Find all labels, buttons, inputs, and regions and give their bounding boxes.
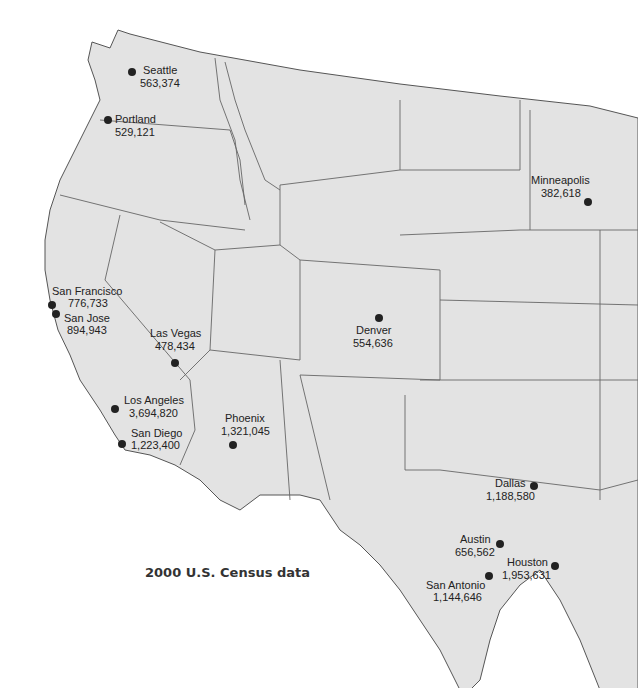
city-name: Las Vegas xyxy=(150,327,202,339)
city-name: San Francisco xyxy=(52,285,122,297)
city-population: 529,121 xyxy=(115,126,155,138)
city-population: 554,636 xyxy=(353,337,393,349)
city-name: San Antonio xyxy=(426,579,485,591)
city-population: 1,188,580 xyxy=(486,490,535,502)
city-name: Dallas xyxy=(495,477,526,489)
city-dot xyxy=(52,310,60,318)
census-map: Seattle 563,374 Portland 529,121 Minneap… xyxy=(0,0,638,688)
city-name: Los Angeles xyxy=(124,394,184,406)
city-population: 1,223,400 xyxy=(131,439,180,451)
city-population: 656,562 xyxy=(455,546,495,558)
city-population: 776,733 xyxy=(68,297,108,309)
city-population: 894,943 xyxy=(67,324,107,336)
city-dot xyxy=(229,441,237,449)
city-population: 563,374 xyxy=(140,77,180,89)
city-name: San Diego xyxy=(131,427,182,439)
city-dot xyxy=(496,540,504,548)
city-name: Minneapolis xyxy=(531,174,590,186)
city-dot xyxy=(485,572,493,580)
city-dot xyxy=(111,405,119,413)
city-dot xyxy=(48,301,56,309)
city-name: Austin xyxy=(460,533,491,545)
city-population: 382,618 xyxy=(541,187,581,199)
map-canvas: Seattle 563,374 Portland 529,121 Minneap… xyxy=(0,0,638,688)
city-name: San Jose xyxy=(64,312,110,324)
city-name: Denver xyxy=(356,324,392,336)
city-dot xyxy=(104,116,112,124)
city-name: Portland xyxy=(115,113,156,125)
city-population: 478,434 xyxy=(155,340,195,352)
city-population: 1,144,646 xyxy=(433,591,482,603)
city-dot xyxy=(375,314,383,322)
city-name: Houston xyxy=(507,556,548,568)
city-dot xyxy=(118,440,126,448)
city-population: 3,694,820 xyxy=(129,407,178,419)
city-population: 1,321,045 xyxy=(221,425,270,437)
city-name: Seattle xyxy=(143,64,177,76)
city-dot xyxy=(530,482,538,490)
city-name: Phoenix xyxy=(225,412,265,424)
city-dot xyxy=(551,562,559,570)
city-dot xyxy=(584,198,592,206)
city-dot xyxy=(128,68,136,76)
city-dot xyxy=(171,359,179,367)
map-caption: 2000 U.S. Census data xyxy=(145,565,310,580)
city-population: 1,953,631 xyxy=(502,569,551,581)
